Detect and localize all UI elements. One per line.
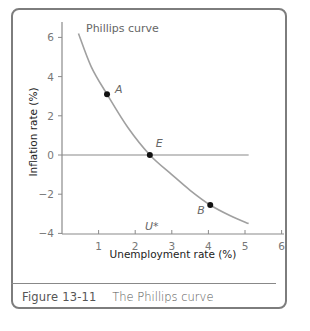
y-axis-label: Inflation rate (%) (27, 87, 39, 176)
curve-label: Phillips curve (86, 22, 159, 35)
figure-title: The Phillips curve (112, 290, 213, 304)
phillips-curve-chart: −4−20246 123456 AEB Phillips curve U* Un… (0, 0, 310, 331)
point-e (147, 152, 153, 158)
y-tick-label: −4 (39, 227, 55, 239)
natural-rate-label: U* (145, 220, 159, 233)
y-tick-label: 4 (47, 71, 54, 83)
point-b (207, 202, 213, 208)
y-tick-label: 6 (47, 31, 54, 43)
y-ticks: −4−20246 (39, 31, 62, 239)
point-label-b: B (197, 204, 205, 217)
y-tick-label: 0 (47, 149, 54, 161)
data-points: AEB (104, 83, 213, 217)
figure-number: Figure 13-11 (22, 290, 97, 304)
point-a (104, 91, 110, 97)
figure-caption: Figure 13-11 The Phillips curve (22, 290, 213, 304)
point-label-e: E (156, 137, 163, 150)
x-tick-label: 5 (242, 240, 249, 252)
phillips-curve-line (78, 33, 248, 223)
x-tick-label: 1 (95, 240, 102, 252)
caption-divider (11, 283, 276, 284)
point-label-a: A (114, 83, 123, 96)
y-tick-label: −2 (39, 188, 54, 200)
y-tick-label: 2 (47, 110, 54, 122)
x-tick-label: 6 (278, 240, 285, 252)
x-axis-label: Unemployment rate (%) (110, 248, 237, 260)
